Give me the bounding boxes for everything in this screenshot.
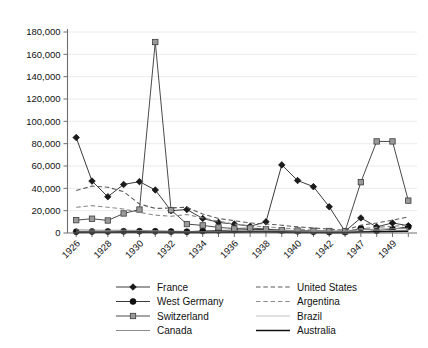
y-tick-label: 180,000 (26, 26, 60, 37)
x-tick-label: 1936 (218, 238, 241, 261)
legend-label: France (157, 282, 189, 293)
x-tick-label: 1938 (249, 238, 272, 261)
legend-marker (130, 313, 135, 318)
data-point (390, 139, 395, 144)
x-tick-label: 1930 (123, 238, 146, 261)
series-united-states (76, 186, 408, 230)
data-point (358, 179, 363, 184)
x-tick-label: 1949 (376, 238, 399, 261)
data-point (73, 217, 78, 222)
legend-label: Canada (157, 325, 192, 336)
x-axis-labels: 1926192819301932193419361938194019421947… (59, 238, 398, 261)
y-tick-label: 60,000 (31, 160, 60, 171)
legend-item-argentina[interactable]: Argentina (256, 296, 340, 307)
x-tick-label: 1928 (91, 238, 114, 261)
series-line (76, 186, 408, 230)
data-point (405, 224, 411, 230)
data-point (121, 211, 126, 216)
x-tick-label: 1947 (344, 238, 367, 261)
data-point (232, 226, 237, 231)
gridlines (68, 32, 418, 211)
legend-marker (130, 284, 137, 291)
legend-item-brazil[interactable]: Brazil (256, 311, 322, 322)
x-tick-label: 1934 (186, 238, 209, 261)
data-point (89, 216, 94, 221)
data-series (73, 39, 412, 235)
legend-label: Argentina (297, 296, 340, 307)
x-tick-label: 1926 (59, 238, 82, 261)
data-point (406, 198, 411, 203)
legend-item-united-states[interactable]: United States (256, 282, 357, 293)
legend-item-switzerland[interactable]: Switzerland (116, 311, 209, 322)
data-point (200, 223, 205, 228)
line-chart: 020,00040,00060,00080,000100,000120,0001… (0, 0, 428, 348)
data-point (153, 39, 158, 44)
chart-container: 020,00040,00060,00080,000100,000120,0001… (0, 0, 428, 348)
y-tick-label: 20,000 (31, 205, 60, 216)
x-tick-label: 1942 (312, 238, 335, 261)
data-point (73, 134, 80, 141)
x-tick-label: 1932 (154, 238, 177, 261)
legend-label: United States (297, 282, 357, 293)
data-point (184, 221, 189, 226)
y-tick-label: 160,000 (26, 49, 60, 60)
legend-item-australia[interactable]: Australia (256, 325, 336, 336)
legend-marker (130, 299, 136, 305)
data-point (374, 139, 379, 144)
x-tick-label: 1940 (281, 238, 304, 261)
y-axis-ticks (64, 32, 68, 233)
data-point (105, 218, 110, 223)
legend-label: Australia (297, 325, 336, 336)
legend-item-canada[interactable]: Canada (116, 325, 192, 336)
legend-label: Switzerland (157, 311, 209, 322)
y-tick-label: 80,000 (31, 138, 60, 149)
y-tick-label: 100,000 (26, 116, 60, 127)
series-switzerland (73, 39, 411, 234)
data-point (216, 225, 221, 230)
legend-item-france[interactable]: France (116, 282, 189, 293)
y-tick-label: 120,000 (26, 93, 60, 104)
legend-label: West Germany (157, 296, 224, 307)
legend-label: Brazil (297, 311, 322, 322)
y-tick-label: 140,000 (26, 71, 60, 82)
chart-legend: FranceWest GermanySwitzerlandCanadaUnite… (116, 282, 357, 337)
series-line (76, 42, 408, 231)
y-tick-label: 0 (55, 227, 60, 238)
legend-item-west-germany[interactable]: West Germany (116, 296, 224, 307)
y-axis-labels: 020,00040,00060,00080,000100,000120,0001… (26, 26, 60, 238)
y-tick-label: 40,000 (31, 183, 60, 194)
